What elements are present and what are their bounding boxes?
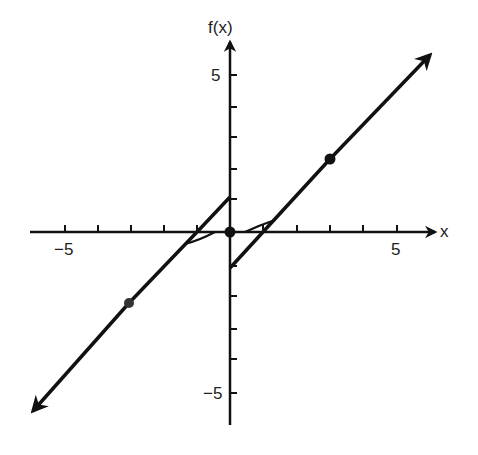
x-tick-label-neg5: −5 — [54, 240, 73, 260]
x-axis-label: x — [440, 222, 449, 242]
y-axis-label: f(x) — [208, 18, 233, 38]
point-neg3-neg2 — [124, 298, 134, 308]
point-3-2 — [325, 154, 336, 165]
y-tick-label-neg5: −5 — [203, 384, 222, 404]
x-tick-label-pos5: 5 — [391, 240, 400, 260]
y-tick-label-pos5: 5 — [211, 66, 220, 86]
origin-point — [225, 227, 236, 238]
function-graph — [0, 0, 478, 455]
